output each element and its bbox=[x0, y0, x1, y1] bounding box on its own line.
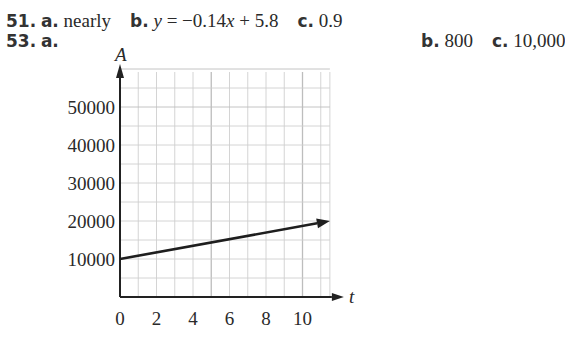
y-tick-label: 40000 bbox=[68, 135, 116, 156]
data-line bbox=[120, 223, 317, 259]
x-axis-arrow-icon bbox=[332, 293, 344, 301]
y-axis-label: A bbox=[113, 44, 127, 65]
y-axis-arrow-icon bbox=[116, 64, 124, 78]
x-tick-label: 10 bbox=[293, 308, 312, 329]
x-tick-label: 8 bbox=[261, 308, 271, 329]
y-tick-label: 50000 bbox=[68, 97, 116, 118]
x-tick-label: 0 bbox=[115, 308, 125, 329]
x-tick-label: 4 bbox=[188, 308, 198, 329]
y-tick-label: 30000 bbox=[68, 173, 116, 194]
x-axis-label: t bbox=[349, 286, 355, 307]
x-tick-label: 2 bbox=[152, 308, 162, 329]
x-tick-label: 6 bbox=[225, 308, 235, 329]
data-line-arrow-icon bbox=[316, 218, 330, 228]
y-tick-label: 10000 bbox=[68, 249, 116, 270]
y-tick-label: 20000 bbox=[68, 211, 116, 232]
